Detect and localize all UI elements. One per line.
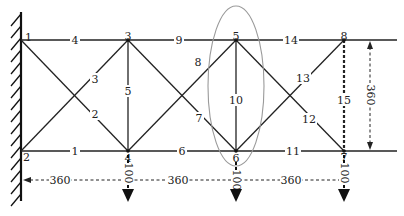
wall-support bbox=[11, 12, 21, 206]
node-label-2: 2 bbox=[23, 151, 30, 164]
load-node-4: 100 bbox=[122, 155, 135, 202]
member-label-12: 12 bbox=[302, 113, 316, 126]
member-label-5: 5 bbox=[125, 85, 132, 98]
load-arrow-down-icon bbox=[230, 189, 242, 202]
wall-hatching bbox=[11, 14, 21, 206]
dimension-arrow-up-icon bbox=[367, 41, 373, 49]
dimension-label-2: 360 bbox=[168, 174, 189, 187]
load-label-7: 100 bbox=[338, 163, 351, 184]
load-label-4: 100 bbox=[122, 163, 135, 184]
vertical-dimension-label: 360 bbox=[364, 85, 377, 106]
load-node-7: 100 bbox=[338, 155, 351, 202]
node-label-8: 8 bbox=[341, 30, 348, 43]
member-label-13: 13 bbox=[296, 72, 310, 85]
node-label-5: 5 bbox=[233, 30, 240, 43]
dimension-arrow-left-icon bbox=[23, 177, 31, 183]
member-label-2: 2 bbox=[92, 108, 99, 121]
load-arrow-down-icon bbox=[338, 189, 350, 202]
member-label-10: 10 bbox=[229, 94, 243, 107]
member-label-1: 1 bbox=[72, 145, 79, 158]
dimension-label-3: 360 bbox=[281, 174, 302, 187]
member-label-4: 4 bbox=[72, 34, 79, 47]
member-label-8: 8 bbox=[195, 56, 202, 69]
member-label-7: 7 bbox=[196, 112, 203, 125]
vertical-dimension: 360 bbox=[364, 41, 377, 150]
node-label-3: 3 bbox=[125, 30, 132, 43]
dimension-label-1: 360 bbox=[50, 174, 71, 187]
horizontal-dimension: 360 360 360 bbox=[23, 174, 344, 187]
truss-diagram: 4 9 14 1 6 11 3 2 5 8 7 10 13 12 15 1 2 bbox=[0, 0, 404, 216]
member-label-15: 15 bbox=[337, 94, 351, 107]
node-label-1: 1 bbox=[25, 31, 32, 44]
load-arrow-down-icon bbox=[122, 189, 134, 202]
load-node-6: 100 bbox=[230, 162, 243, 202]
member-label-3: 3 bbox=[92, 73, 99, 86]
dimension-arrow-down-icon bbox=[367, 142, 373, 150]
load-label-6: 100 bbox=[230, 170, 243, 191]
member-label-14: 14 bbox=[284, 34, 298, 47]
loads: 100 100 100 bbox=[122, 155, 351, 202]
member-label-6: 6 bbox=[179, 145, 186, 158]
member-label-11: 11 bbox=[286, 145, 300, 158]
member-label-9: 9 bbox=[176, 34, 183, 47]
